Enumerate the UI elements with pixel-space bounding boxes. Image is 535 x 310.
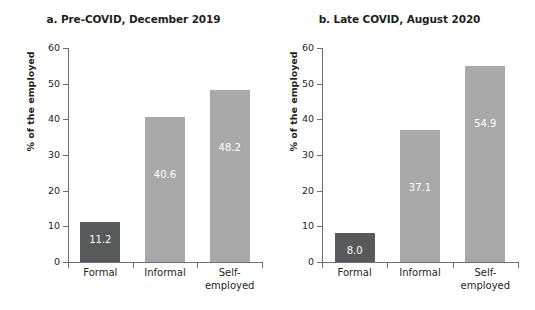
y-tick-label: 30 — [26, 150, 60, 160]
y-tick-label: 60 — [26, 43, 60, 53]
y-tick-label: 50 — [26, 79, 60, 89]
bar-value-label: 11.2 — [80, 234, 120, 245]
y-tick-label: 40 — [26, 114, 60, 124]
y-tick-label: 60 — [280, 43, 314, 53]
bar[interactable]: 48.2 — [210, 90, 250, 262]
panel-a-plot-area: 0102030405060 11.240.648.2 — [68, 48, 262, 262]
panel-a-y-axis-label: % of the employed — [25, 42, 36, 162]
chart-panel-b: b. Late COVID, August 2020 % of the empl… — [266, 0, 533, 310]
panel-b-title: b. Late COVID, August 2020 — [266, 13, 533, 25]
bar-value-label: 40.6 — [145, 169, 185, 180]
bar-value-label: 54.9 — [465, 118, 505, 129]
bar[interactable]: 11.2 — [80, 222, 120, 262]
bar[interactable]: 37.1 — [400, 130, 440, 262]
panel-b-x-labels: FormalInformalSelf-employed — [322, 267, 518, 307]
y-tick-label: 10 — [280, 221, 314, 231]
panel-b-x-axis-line — [322, 262, 518, 263]
bar-value-label: 48.2 — [210, 142, 250, 153]
y-tick-label: 20 — [280, 186, 314, 196]
chart-panel-a: a. Pre-COVID, December 2019 % of the emp… — [0, 0, 267, 310]
y-tick-label: 50 — [280, 79, 314, 89]
x-axis-category-line: employed — [185, 280, 275, 293]
x-axis-category-line: Self- — [440, 267, 530, 280]
y-tick-label: 10 — [26, 221, 60, 231]
panel-b-y-axis-label: % of the employed — [288, 42, 299, 162]
figure: a. Pre-COVID, December 2019 % of the emp… — [0, 0, 535, 310]
panel-b-plot-area: 0102030405060 8.037.154.9 — [322, 48, 518, 262]
panel-a-title: a. Pre-COVID, December 2019 — [0, 13, 267, 25]
bar-value-label: 8.0 — [335, 245, 375, 256]
bar[interactable]: 40.6 — [145, 117, 185, 262]
y-tick-label: 30 — [280, 150, 314, 160]
panel-b-bars: 8.037.154.9 — [322, 48, 518, 262]
x-axis-category-label: Self-employed — [185, 267, 275, 292]
y-tick-label: 40 — [280, 114, 314, 124]
panel-a-bars: 11.240.648.2 — [68, 48, 262, 262]
x-axis-category-line: Self- — [185, 267, 275, 280]
y-tick-label: 0 — [26, 257, 60, 267]
panel-a-x-axis-line — [68, 262, 262, 263]
bar-value-label: 37.1 — [400, 182, 440, 193]
y-tick-label: 0 — [280, 257, 314, 267]
panel-a-x-labels: FormalInformalSelf-employed — [68, 267, 262, 307]
bar[interactable]: 8.0 — [335, 233, 375, 262]
bar[interactable]: 54.9 — [465, 66, 505, 262]
y-tick-label: 20 — [26, 186, 60, 196]
x-axis-category-line: employed — [440, 280, 530, 293]
x-axis-category-label: Self-employed — [440, 267, 530, 292]
